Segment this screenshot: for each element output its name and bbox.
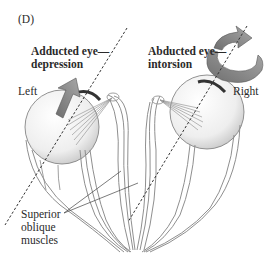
panel-label: (D) (18, 13, 34, 26)
abducted-eye-label-line1: Abducted eye— (148, 45, 226, 58)
right-label: Right (233, 85, 259, 98)
abducted-eye-label-line2: intorsion (148, 58, 192, 71)
muscle-label-line1: Superior (21, 208, 61, 221)
adducted-eye-label-line2: depression (31, 58, 83, 71)
left-label: Left (18, 85, 37, 98)
muscle-label-line3: muscles (21, 234, 58, 247)
adducted-eye-label-line1: Adducted eye— (31, 45, 109, 58)
muscle-label-line2: oblique (21, 221, 56, 234)
